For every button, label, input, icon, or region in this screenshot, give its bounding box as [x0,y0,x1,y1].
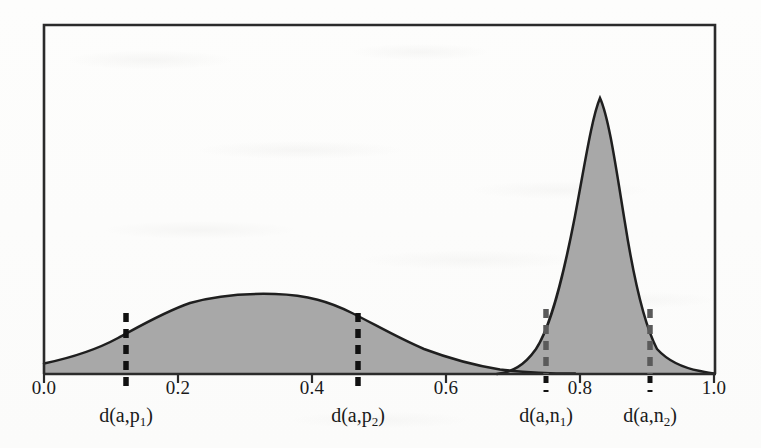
marker-label-a-p2-sub: 2 [372,414,379,429]
marker-label-a-n2: d(a,n2) [623,404,677,427]
x-tick-label-1: 0.2 [166,377,190,399]
x-tick-label-3: 0.6 [434,377,458,399]
x-tick-label-4: 0.8 [568,377,592,399]
distance-distribution-figure: 0.0 0.2 0.4 0.6 0.8 1.0 d(a,p1) d(a,p2) … [0,0,761,448]
marker-label-a-p1: d(a,p1) [99,404,153,427]
marker-label-a-n2-tail: ) [670,404,677,426]
x-axis-ticks [44,374,714,383]
marker-label-a-n1-sub: 1 [560,414,567,429]
marker-label-a-n2-sub: 2 [664,414,671,429]
marker-label-a-n1-lead: d(a,n [519,404,560,426]
marker-label-a-n1-tail: ) [566,404,573,426]
area-negative-distribution [497,98,715,374]
marker-label-a-p2-lead: d(a,p [331,404,372,426]
marker-label-a-p2: d(a,p2) [331,404,385,427]
x-tick-label-0: 0.0 [32,377,56,399]
x-tick-label-5: 1.0 [702,377,726,399]
plot-canvas [0,0,761,448]
marker-label-a-p2-tail: ) [378,404,385,426]
marker-label-a-p1-tail: ) [146,404,153,426]
marker-label-a-p1-lead: d(a,p [99,404,140,426]
x-tick-label-2: 0.4 [300,377,324,399]
annotation-marker-stubs [546,376,650,392]
marker-label-a-n1: d(a,n1) [519,404,573,427]
marker-label-a-n2-lead: d(a,n [623,404,664,426]
marker-label-a-p1-sub: 1 [140,414,147,429]
